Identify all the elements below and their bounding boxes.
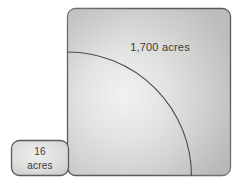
large-square-shape — [68, 9, 231, 176]
large-square-edge-shading — [68, 9, 231, 176]
diagram-canvas: 1,700 acres 16 acres — [0, 0, 244, 181]
small-square-label: 16 acres — [11, 145, 69, 173]
small-square-label-value: 16 — [34, 146, 46, 157]
large-square-label: 1,700 acres — [100, 41, 220, 54]
small-square-label-unit: acres — [11, 159, 69, 173]
